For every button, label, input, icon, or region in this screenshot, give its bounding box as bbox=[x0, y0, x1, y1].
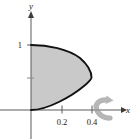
rotation-about-x-axis-arrow bbox=[96, 96, 113, 119]
figure-container: y x 1 0.2 0.4 bbox=[0, 0, 136, 139]
y-axis-arrowhead bbox=[28, 11, 34, 18]
x-tick-label-0.4: 0.4 bbox=[87, 117, 98, 127]
y-axis-label: y bbox=[28, 1, 33, 11]
plot-svg: y x 1 0.2 0.4 bbox=[0, 0, 136, 139]
x-tick-label-0.2: 0.2 bbox=[57, 117, 68, 127]
y-tick-label-1: 1 bbox=[18, 40, 22, 50]
x-axis-label: x bbox=[125, 105, 130, 115]
